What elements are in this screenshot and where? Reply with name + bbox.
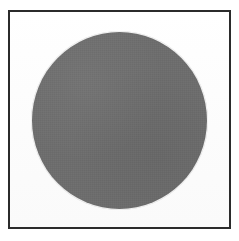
image-canvas	[0, 0, 239, 241]
figure-frame	[8, 10, 231, 229]
gray-circle-shape	[32, 32, 207, 209]
